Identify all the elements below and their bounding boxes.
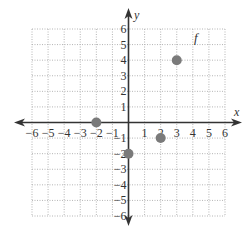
y-tick-label: 3 bbox=[121, 69, 127, 83]
data-point bbox=[124, 149, 134, 159]
x-tick-label: 1 bbox=[142, 126, 148, 140]
y-tick-label: −6 bbox=[114, 209, 127, 223]
function-label: f bbox=[194, 30, 200, 45]
data-point bbox=[156, 133, 166, 143]
y-tick-label: 6 bbox=[121, 22, 127, 36]
x-tick-label: −5 bbox=[42, 126, 55, 140]
data-point bbox=[91, 118, 101, 128]
x-axis-label: x bbox=[233, 105, 240, 119]
y-tick-label: 1 bbox=[121, 100, 127, 114]
x-tick-label: −3 bbox=[74, 126, 87, 140]
x-tick-label: −6 bbox=[26, 126, 39, 140]
y-tick-label: 2 bbox=[121, 84, 127, 98]
x-tick-label: 6 bbox=[222, 126, 228, 140]
y-tick-label: −1 bbox=[114, 131, 127, 145]
y-tick-label: −3 bbox=[114, 162, 127, 176]
x-tick-label: 3 bbox=[174, 126, 180, 140]
x-tick-label: −4 bbox=[58, 126, 71, 140]
coordinate-plane: −6−5−4−3−2−1123456−6−5−4−3−2−1123456 x y… bbox=[0, 0, 244, 227]
x-tick-label: −2 bbox=[90, 126, 103, 140]
x-tick-label: 4 bbox=[190, 126, 196, 140]
y-tick-label: 4 bbox=[121, 53, 127, 67]
y-axis-label: y bbox=[133, 8, 140, 22]
y-tick-label: −4 bbox=[114, 178, 127, 192]
y-tick-label: 5 bbox=[121, 38, 127, 52]
y-tick-label: −5 bbox=[114, 193, 127, 207]
data-point bbox=[172, 55, 182, 65]
x-tick-label: 5 bbox=[206, 126, 212, 140]
